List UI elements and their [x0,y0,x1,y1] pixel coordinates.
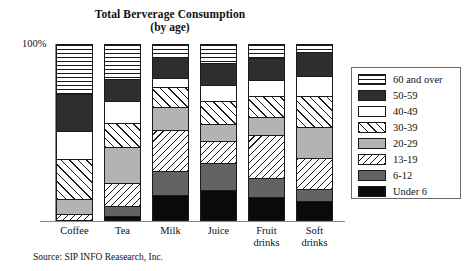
legend-item-60-and-over[interactable]: 60 and over [358,72,460,87]
legend-swatch-icon [358,186,386,197]
legend-item-label: Under 6 [393,186,427,197]
bar-segment [249,59,284,80]
chart-title: Total Berverage Consumption [0,8,340,21]
bar-segment [105,184,140,207]
legend-item-50-59[interactable]: 50-59 [358,88,460,103]
legend-item-13-19[interactable]: 13-19 [358,152,460,167]
x-label-soft-drinks: Softdrinks [286,225,344,249]
y-axis-max-label: 100% [22,38,47,49]
bar-segment [57,160,92,200]
bar-segment [249,198,284,220]
bar-segment [57,95,92,132]
bar-segment [201,164,236,192]
bar-segment [153,58,188,79]
bar-segment [105,102,140,123]
x-axis-line [40,221,345,222]
bar-segment [201,191,236,220]
bar-segment [249,118,284,136]
bar-segment [153,88,188,107]
bar-segment [297,45,332,53]
bar-segment [249,179,284,198]
bar-segment [105,207,140,216]
bar-segment [249,97,284,118]
legend-swatch-icon [358,170,386,181]
x-label-line2: drinks [286,237,344,249]
legend-item-label: 30-39 [393,122,418,133]
legend-item-label: 20-29 [393,138,418,149]
chart-legend: 60 and over50-5940-4930-3920-2913-196-12… [351,67,461,199]
legend-item-6-12[interactable]: 6-12 [358,168,460,183]
legend-swatch-icon [358,74,386,85]
bar-segment [153,131,188,172]
bar-segment [105,124,140,149]
bar-segment [201,142,236,163]
bar-segment [201,102,236,125]
bar-segment [57,45,92,95]
bar-segment [105,45,140,80]
bar-segment [297,159,332,190]
bar-segment [297,190,332,201]
legend-item-label: 50-59 [393,90,418,101]
bar-segment [57,215,92,220]
legend-item-label: 60 and over [393,74,443,85]
bar-segment [57,200,92,215]
legend-item-label: 13-19 [393,154,418,165]
chart-subtitle: (by age) [0,21,340,34]
legend-item-40-49[interactable]: 40-49 [358,104,460,119]
legend-item-label: 40-49 [393,106,418,117]
bar-segment [153,45,188,58]
legend-swatch-icon [358,138,386,149]
bar-segment [201,125,236,143]
bar-segment [297,202,332,220]
bar-milk [152,44,189,221]
bar-segment [153,196,188,220]
legend-item-label: 6-12 [393,170,412,181]
bar-segment [201,45,236,64]
bar-segment [153,172,188,197]
x-label-line1: Soft [286,225,344,237]
bar-segment [249,136,284,179]
bar-segment [297,77,332,96]
legend-swatch-icon [358,106,386,117]
bar-segment [105,217,140,220]
bar-fruit-drinks [248,44,285,221]
plot-area [56,44,346,221]
bar-tea [104,44,141,221]
legend-swatch-icon [358,154,386,165]
bar-segment [105,148,140,184]
legend-swatch-icon [358,122,386,133]
bar-segment [249,45,284,59]
bar-segment [57,132,92,160]
bar-segment [297,53,332,78]
bar-segment [153,79,188,88]
bar-segment [297,128,332,159]
bar-segment [201,86,236,102]
bar-coffee [56,44,93,221]
bar-segment [201,64,236,85]
legend-item-30-39[interactable]: 30-39 [358,120,460,135]
bar-segment [249,81,284,97]
bar-juice [200,44,237,221]
bar-soft-drinks [296,44,333,221]
source-note: Source: SIP INFO Reasearch, Inc. [33,252,163,263]
legend-swatch-icon [358,90,386,101]
bar-segment [297,97,332,128]
legend-item-20-29[interactable]: 20-29 [358,136,460,151]
legend-item-under-6[interactable]: Under 6 [358,184,460,199]
bar-segment [105,80,140,103]
bar-segment [153,108,188,131]
